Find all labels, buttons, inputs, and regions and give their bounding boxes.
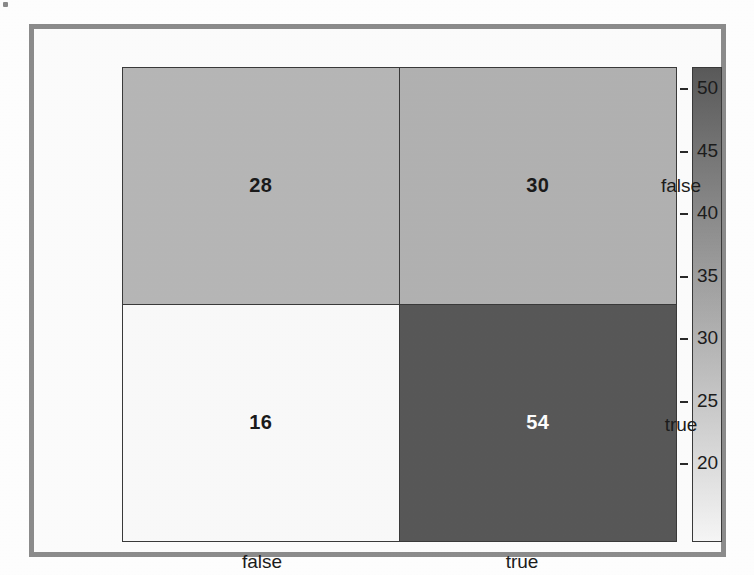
x-axis-tick-false: false bbox=[192, 551, 332, 573]
colorbar-tick-label: 45 bbox=[697, 140, 718, 162]
colorbar-tick-label: 50 bbox=[697, 77, 718, 99]
x-axis-tick-true: true bbox=[452, 551, 592, 573]
y-axis-tick-true: true bbox=[641, 414, 721, 436]
colorbar-tick-mark bbox=[680, 401, 688, 403]
heatmap-cell-false-true[interactable]: 30 bbox=[400, 68, 677, 305]
colorbar-tick-mark bbox=[680, 338, 688, 340]
heatmap-cell-true-true[interactable]: 54 bbox=[400, 305, 677, 542]
scan-speck bbox=[3, 2, 8, 7]
y-axis-tick-false: false bbox=[641, 175, 721, 197]
heatmap-cell-value: 16 bbox=[249, 411, 272, 434]
heatmap-cell-value: 30 bbox=[526, 174, 549, 197]
colorbar-tick-mark bbox=[680, 151, 688, 153]
colorbar-tick-label: 25 bbox=[697, 390, 718, 412]
heatmap-cell-true-false[interactable]: 16 bbox=[123, 305, 400, 542]
colorbar-tick-mark bbox=[680, 276, 688, 278]
heatmap-cell-value: 54 bbox=[526, 411, 549, 434]
colorbar-tick-label: 40 bbox=[697, 202, 718, 224]
colorbar-tick-label: 35 bbox=[697, 265, 718, 287]
colorbar-tick-label: 30 bbox=[697, 327, 718, 349]
colorbar-tick-label: 20 bbox=[697, 452, 718, 474]
colorbar-tick-mark bbox=[680, 88, 688, 90]
colorbar-tick-mark bbox=[680, 463, 688, 465]
heatmap-cell-value: 28 bbox=[249, 174, 272, 197]
heatmap-cell-false-false[interactable]: 28 bbox=[123, 68, 400, 305]
figure-frame: not to have next check this. Note this v… bbox=[29, 24, 726, 557]
confusion-matrix-heatmap: 28 30 16 54 bbox=[122, 67, 677, 542]
colorbar-tick-mark bbox=[680, 213, 688, 215]
